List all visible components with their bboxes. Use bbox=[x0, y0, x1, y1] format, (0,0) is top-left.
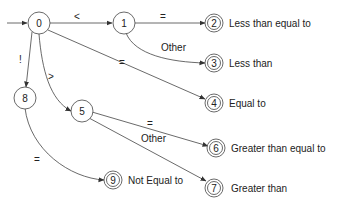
node-6-description: Greater than equal to bbox=[231, 143, 326, 154]
node-4-accepting: 4 Equal to bbox=[205, 94, 266, 112]
node-2-accepting: 2 Less than equal to bbox=[205, 14, 311, 32]
edge-0-5 bbox=[39, 34, 71, 111]
node-3-accepting: 3 Less than bbox=[205, 54, 272, 72]
node-5: 5 bbox=[71, 100, 93, 122]
node-6-accepting: 6 Greater than equal to bbox=[207, 139, 326, 157]
node-9-accepting: 9 Not Equal to bbox=[104, 171, 183, 189]
node-8: 8 bbox=[14, 87, 36, 109]
edge-label-0-1: < bbox=[74, 11, 80, 22]
edge-0-4 bbox=[48, 30, 205, 99]
svg-text:9: 9 bbox=[110, 175, 116, 186]
svg-text:3: 3 bbox=[211, 58, 217, 69]
edge-label-0-8: ! bbox=[19, 54, 22, 65]
node-1: 1 bbox=[113, 12, 135, 34]
svg-text:5: 5 bbox=[79, 106, 85, 117]
edge-label-1-3: Other bbox=[161, 42, 187, 53]
node-2-description: Less than equal to bbox=[229, 18, 311, 29]
edge-label-5-6: = bbox=[147, 118, 153, 129]
node-9-description: Not Equal to bbox=[128, 175, 183, 186]
edge-label-0-5: > bbox=[48, 71, 54, 82]
svg-text:0: 0 bbox=[36, 18, 42, 29]
node-0: 0 bbox=[28, 12, 50, 34]
node-7-description: Greater than bbox=[231, 183, 287, 194]
svg-text:2: 2 bbox=[211, 18, 217, 29]
svg-text:4: 4 bbox=[211, 98, 217, 109]
edge-labels: < = Other = ! > = Other = bbox=[19, 11, 187, 165]
edge-0-8 bbox=[26, 32, 32, 87]
svg-text:6: 6 bbox=[213, 143, 219, 154]
svg-text:7: 7 bbox=[211, 183, 217, 194]
node-3-description: Less than bbox=[229, 58, 272, 69]
svg-text:1: 1 bbox=[121, 18, 127, 29]
edge-label-0-4: = bbox=[119, 57, 125, 68]
edge-8-9 bbox=[25, 108, 104, 180]
node-7-accepting: 7 Greater than bbox=[205, 179, 287, 197]
svg-text:8: 8 bbox=[22, 93, 28, 104]
transition-diagram: < = Other = ! > = Other = 0 1 2 Less tha… bbox=[0, 0, 340, 204]
edge-label-1-2: = bbox=[160, 11, 166, 22]
edge-label-5-7: Other bbox=[141, 133, 167, 144]
node-4-description: Equal to bbox=[229, 98, 266, 109]
edge-label-8-9: = bbox=[34, 154, 40, 165]
